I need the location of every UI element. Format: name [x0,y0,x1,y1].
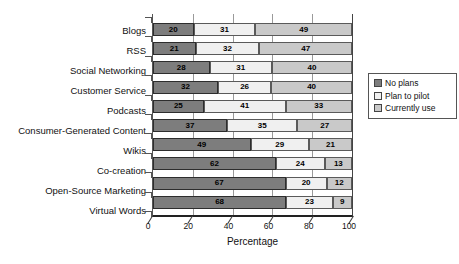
category-label: Podcasts [0,104,146,117]
bar-row: 672012 [153,177,352,190]
legend-label: No plans [385,79,419,88]
bar-segment: 33 [286,100,352,113]
bar-segment: 21 [153,42,196,55]
x-axis-title: Percentage [152,236,353,247]
bar-row: 373527 [153,119,352,132]
category-tick [145,114,152,120]
bar-segment: 12 [327,177,352,190]
category-label: RSS [0,44,146,57]
category-tick [145,95,152,101]
legend-label: Plan to pilot [385,92,429,101]
category-label: Wikis [0,144,146,157]
legend-box: No plansPlan to pilotCurrently use [368,73,457,119]
category-tick [145,133,152,139]
category-tick [145,153,152,159]
bar-segment: 28 [153,61,210,74]
value-tick-label: 60 [254,221,284,231]
legend-item: No plans [374,79,452,88]
bar-segment: 41 [204,100,286,113]
bar-segment: 20 [153,23,194,36]
category-label: Blogs [0,24,146,37]
bar-segment: 23 [286,196,332,209]
category-label: Co-creation [0,164,146,177]
legend-label: Currently use [385,104,436,113]
category-tick [145,172,152,178]
bar-row: 203149 [153,23,352,36]
bar-segment: 29 [251,138,310,151]
category-tick [145,56,152,62]
bar-segment: 49 [153,138,251,151]
bar-segment: 62 [153,157,276,170]
category-tick [145,75,152,81]
category-label: Open-Source Marketing [0,184,146,197]
legend-swatch-icon [374,104,382,112]
category-tick [145,192,152,198]
bar-segment: 13 [325,157,352,170]
category-label: Social Networking [0,64,146,77]
bar-row: 622413 [153,157,352,170]
legend-item: Currently use [374,104,452,113]
value-tick-label: 100 [334,221,364,231]
bar-segment: 32 [196,42,260,55]
bar-segment: 40 [272,61,352,74]
bar-segment: 9 [333,196,352,209]
bar-row: 492921 [153,138,352,151]
category-tick [145,36,152,42]
bar-segment: 25 [153,100,204,113]
bar-segment: 31 [194,23,256,36]
value-tick-label: 40 [213,221,243,231]
bar-row: 283140 [153,61,352,74]
bar-segment: 26 [218,81,271,94]
bar-segment: 37 [153,119,227,132]
legend-item: Plan to pilot [374,92,452,101]
bar-segment: 35 [227,119,297,132]
category-label: Virtual Words [0,204,146,217]
category-tick [145,17,152,23]
bar-row: 213247 [153,42,352,55]
bar-segment: 47 [259,42,352,55]
category-axis-labels: BlogsRSSSocial NetworkingCustomer Servic… [0,20,146,220]
legend-swatch-icon [374,92,382,100]
bar-segment: 67 [153,177,286,190]
plot-area: 2031492132472831403226402541333735274929… [152,14,353,217]
category-label: Consumer-Generated Content [0,124,146,137]
value-tick-label: 0 [133,221,163,231]
bar-segment: 40 [271,81,352,94]
value-tick-label: 80 [294,221,324,231]
category-label: Customer Service [0,84,146,97]
bar-segment: 68 [153,196,286,209]
bar-row: 254133 [153,100,352,113]
bars-container: 2031492132472831403226402541333735274929… [153,20,352,212]
bar-segment: 21 [309,138,352,151]
bar-row: 322640 [153,81,352,94]
bar-segment: 49 [255,23,352,36]
value-tick-label: 20 [173,221,203,231]
bar-segment: 32 [153,81,218,94]
legend-swatch-icon [374,79,382,87]
bar-segment: 20 [286,177,327,190]
stacked-bar-chart: BlogsRSSSocial NetworkingCustomer Servic… [0,0,459,264]
bar-segment: 31 [210,61,272,74]
bar-segment: 27 [297,119,352,132]
bar-row: 68239 [153,196,352,209]
bar-segment: 24 [276,157,325,170]
